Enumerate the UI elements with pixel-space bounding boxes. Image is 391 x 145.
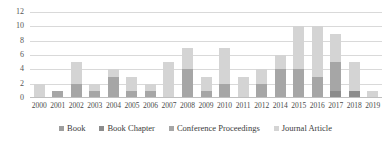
bar-group	[327, 12, 346, 98]
bar-segment	[126, 77, 137, 91]
y-axis-tick-label: 6	[20, 51, 24, 59]
bar-group	[364, 12, 383, 98]
x-axis-tick-label: 2006	[141, 100, 160, 112]
bar-stack[interactable]	[126, 77, 137, 98]
bar-group	[289, 12, 308, 98]
bar-segment	[108, 77, 119, 99]
x-axis-tick-label: 2010	[215, 100, 234, 112]
bar-stack[interactable]	[349, 62, 360, 98]
y-axis-tick-label: 8	[20, 37, 24, 45]
bar-group	[178, 12, 197, 98]
legend-item[interactable]: Book	[59, 123, 85, 133]
y-axis-tick-label: 10	[16, 22, 24, 30]
bar-stack[interactable]	[256, 69, 267, 98]
legend-swatch-icon	[169, 126, 174, 131]
bar-group	[86, 12, 105, 98]
x-axis-tick-label: 2018	[345, 100, 364, 112]
legend-label: Journal Article	[282, 123, 332, 133]
bar-group	[271, 12, 290, 98]
x-axis-baseline	[30, 97, 382, 98]
bar-stack[interactable]	[108, 69, 119, 98]
x-axis-tick-label: 2016	[308, 100, 327, 112]
bar-stack[interactable]	[145, 84, 156, 98]
x-axis-tick-label: 2012	[252, 100, 271, 112]
bar-group	[308, 12, 327, 98]
bar-stack[interactable]	[163, 62, 174, 98]
y-axis-tick-label: 0	[20, 94, 24, 102]
y-axis-tick-label: 4	[20, 65, 24, 73]
bar-group	[234, 12, 253, 98]
stacked-bar-chart: 024681012 200020012002200320042005200620…	[0, 0, 391, 145]
bar-stack[interactable]	[219, 48, 230, 98]
bar-segment	[349, 62, 360, 91]
bar-group	[67, 12, 86, 98]
bar-segment	[34, 84, 45, 98]
bar-segment	[275, 69, 286, 98]
x-axis-tick-label: 2015	[289, 100, 308, 112]
x-axis-tick-label: 2001	[49, 100, 68, 112]
legend-swatch-icon	[99, 126, 104, 131]
bar-segment	[312, 77, 323, 99]
bar-segment	[71, 62, 82, 84]
bar-segment	[330, 34, 341, 63]
x-axis-tick-label: 2019	[364, 100, 383, 112]
bar-segment	[182, 48, 193, 70]
x-axis-tick-label: 2002	[67, 100, 86, 112]
bar-segment	[238, 77, 249, 99]
bar-segment	[163, 62, 174, 98]
chart-legend: BookBook ChapterConference ProceedingsJo…	[0, 123, 391, 133]
bar-segment	[312, 26, 323, 76]
bar-stack[interactable]	[330, 34, 341, 98]
y-axis: 024681012	[0, 12, 28, 98]
legend-item[interactable]: Conference Proceedings	[169, 123, 260, 133]
x-axis-tick-label: 2009	[197, 100, 216, 112]
x-axis-tick-label: 2000	[30, 100, 49, 112]
legend-label: Book Chapter	[107, 123, 154, 133]
bar-stack[interactable]	[34, 84, 45, 98]
legend-label: Conference Proceedings	[177, 123, 260, 133]
bar-stack[interactable]	[201, 77, 212, 98]
y-axis-tick-label: 12	[16, 8, 24, 16]
bar-stack[interactable]	[293, 26, 304, 98]
bar-group	[197, 12, 216, 98]
bar-segment	[71, 84, 82, 98]
x-axis-tick-label: 2008	[178, 100, 197, 112]
x-axis-tick-label: 2003	[86, 100, 105, 112]
bar-segment	[89, 84, 100, 91]
bar-segment	[256, 69, 267, 83]
x-axis: 2000200120022003200420052006200720082009…	[30, 100, 382, 112]
x-axis-tick-label: 2007	[160, 100, 179, 112]
bar-segment	[330, 62, 341, 91]
bar-stack[interactable]	[89, 84, 100, 98]
bar-stack[interactable]	[312, 26, 323, 98]
bar-segment	[182, 69, 193, 98]
bar-group	[123, 12, 142, 98]
bar-segment	[108, 69, 119, 76]
plot-area	[30, 12, 382, 98]
bar-group	[104, 12, 123, 98]
bar-segment	[145, 84, 156, 91]
x-axis-tick-label: 2004	[104, 100, 123, 112]
bar-stack[interactable]	[275, 55, 286, 98]
y-axis-tick-label: 2	[20, 80, 24, 88]
bar-group	[345, 12, 364, 98]
bar-group	[30, 12, 49, 98]
legend-item[interactable]: Book Chapter	[99, 123, 154, 133]
bar-group	[160, 12, 179, 98]
bar-segment	[293, 26, 304, 69]
bar-group	[215, 12, 234, 98]
bar-segment	[256, 84, 267, 98]
legend-swatch-icon	[274, 126, 279, 131]
bar-segment	[219, 84, 230, 98]
bar-stack[interactable]	[71, 62, 82, 98]
bar-segment	[275, 55, 286, 69]
bar-segment	[201, 77, 212, 91]
bar-group	[49, 12, 68, 98]
bar-group	[252, 12, 271, 98]
bar-stack[interactable]	[238, 77, 249, 99]
x-axis-tick-label: 2011	[234, 100, 253, 112]
x-axis-tick-label: 2005	[123, 100, 142, 112]
legend-item[interactable]: Journal Article	[274, 123, 332, 133]
bar-stack[interactable]	[182, 48, 193, 98]
legend-swatch-icon	[59, 126, 64, 131]
